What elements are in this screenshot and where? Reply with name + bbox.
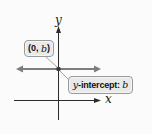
y-axis (56, 26, 61, 120)
line-left-arrow-icon (16, 66, 23, 73)
y-axis-arrow-icon (56, 26, 61, 33)
line-right-arrow-icon (94, 66, 101, 73)
diagram-canvas: y x (0, b) y-intercept: b (0, 0, 152, 134)
x-axis (14, 98, 101, 103)
x-axis-arrow-icon (94, 98, 101, 103)
point-coordinates-callout: (0, b) (24, 40, 54, 57)
x-axis-label: x (105, 93, 112, 105)
coordinate-plane (0, 0, 152, 134)
y-intercept-callout: y-intercept: b (68, 76, 133, 94)
intercept-point (56, 67, 61, 72)
y-intercept-value: b (122, 80, 128, 90)
y-axis-label: y (55, 14, 62, 26)
point-leader-line (45, 56, 57, 67)
